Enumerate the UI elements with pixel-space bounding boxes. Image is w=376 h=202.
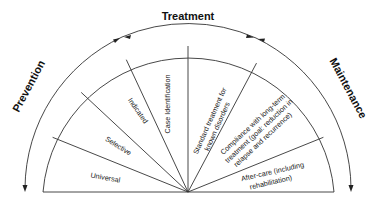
arrow-down-right-icon [349,185,354,192]
spectrum-diagram: Treatment Prevention Maintenance Univers… [0,0,376,202]
spoke-3 [126,60,188,192]
arrow-right-meet-icon-b [258,39,265,43]
segment-universal: Universal [90,171,121,185]
phase-label-treatment: Treatment [162,10,215,22]
prevention-arc [25,37,122,188]
arrow-down-left-icon [23,185,28,192]
segment-after-care: After-care (including rehabilitation) [240,160,307,193]
segment-compliance-line-2: treatment (goal: reduction in [223,97,295,165]
segment-indicated: Indicated [126,96,150,125]
segment-selective: Selective [104,134,134,157]
phase-label-maintenance: Maintenance [328,56,370,120]
treatment-arc [122,24,256,38]
segment-compliance: Compliance with long-term treatment (goa… [217,90,301,171]
segment-labels: Universal Selective Indicated Case Ident… [90,74,307,192]
arrow-left-meet-icon [113,38,120,43]
segment-case-identification: Case Identification [163,74,172,133]
phase-label-prevention: Prevention [10,58,47,114]
